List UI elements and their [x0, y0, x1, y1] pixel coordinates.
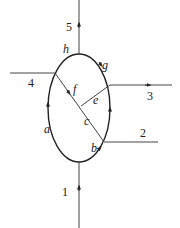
label-h: h [63, 42, 69, 56]
label-f: f [73, 82, 78, 96]
loop-arrow-g-icon [99, 62, 101, 65]
label-3: 3 [147, 89, 153, 103]
chord-line [55, 73, 104, 142]
label-e: e [93, 93, 99, 107]
label-a: a [44, 122, 50, 136]
label-b: b [91, 141, 97, 155]
flow-diagram: 5 h g 4 f e 3 c a 2 b 1 [0, 0, 180, 228]
label-2: 2 [140, 126, 146, 140]
label-c: c [84, 114, 90, 128]
loop-oval [48, 54, 110, 162]
label-g: g [102, 58, 108, 72]
label-4: 4 [28, 76, 34, 90]
label-5: 5 [66, 20, 72, 34]
label-1: 1 [62, 185, 68, 199]
